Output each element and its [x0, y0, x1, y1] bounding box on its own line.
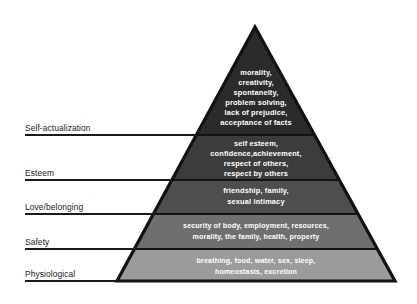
tier-content-line: lack of prejudice,	[224, 108, 287, 117]
side-label-safety: Safety	[25, 237, 50, 247]
tier-content-line: homeostasis, excretion	[215, 268, 297, 276]
side-label-self-actualization: Self-actualization	[25, 123, 91, 133]
tier-content-line: breathing, food, water, sex, sleep,	[197, 257, 316, 265]
tier-content-line: morality, the family, health, property	[193, 233, 320, 241]
tier-content-line: acceptance of facts	[220, 118, 291, 127]
tier-content-line: morality,	[240, 68, 272, 77]
tier-band-safety	[135, 214, 378, 249]
side-label-esteem: Esteem	[25, 168, 54, 178]
tier-content-line: spontaneity,	[234, 88, 279, 97]
tier-content-line: security of body, employment, resources,	[183, 222, 329, 230]
pyramid-graphic: Self-actualization Esteem Love/belonging…	[0, 0, 417, 304]
side-label-physiological: Physiological	[25, 269, 75, 279]
tier-content-line: problem solving,	[225, 98, 287, 107]
tier-content-line: sexual intimacy	[227, 197, 285, 206]
tier-content-line: friendship, family,	[223, 186, 289, 195]
tier-content-line: creativity,	[238, 78, 274, 87]
tier-content-line: self esteem,	[234, 139, 278, 148]
tier-band-physiological	[117, 249, 395, 281]
tier-content-line: respect of others,	[224, 159, 289, 168]
tier-content-line: respect by others	[224, 169, 288, 178]
side-label-love-belonging: Love/belonging	[25, 202, 83, 212]
tier-content-line: confidence,achievement,	[210, 149, 301, 158]
maslow-pyramid-diagram: Self-actualization Esteem Love/belonging…	[0, 0, 417, 304]
